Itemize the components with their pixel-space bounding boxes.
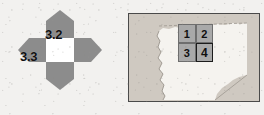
grid-cell-4-label: 4 bbox=[201, 46, 208, 60]
petal-right[interactable] bbox=[74, 38, 102, 62]
figure-canvas: 3.2 3.3 1 2 3 4 bbox=[0, 0, 264, 115]
grid-cell-4[interactable]: 4 bbox=[196, 43, 214, 62]
grid-cell-3-label: 3 bbox=[184, 47, 190, 59]
numbered-cell-grid: 1 2 3 4 bbox=[178, 24, 213, 62]
grid-cell-2[interactable]: 2 bbox=[196, 24, 214, 43]
grid-cell-3[interactable]: 3 bbox=[178, 43, 196, 62]
petal-label-top: 3.2 bbox=[45, 27, 62, 42]
petal-label-left: 3.3 bbox=[20, 49, 37, 64]
petal-diagram: 3.2 3.3 bbox=[17, 9, 103, 101]
map-panel: 1 2 3 4 bbox=[128, 13, 260, 102]
grid-cell-1[interactable]: 1 bbox=[178, 24, 196, 43]
grid-cell-2-label: 2 bbox=[201, 28, 207, 40]
petal-down[interactable] bbox=[46, 62, 74, 90]
grid-cell-1-label: 1 bbox=[184, 28, 190, 40]
